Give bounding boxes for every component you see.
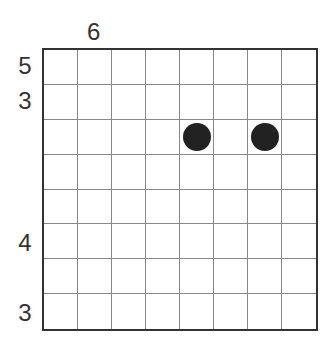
grid-cell[interactable] <box>248 120 282 155</box>
grid-cell[interactable] <box>146 120 180 155</box>
grid-cell[interactable] <box>78 224 112 259</box>
grid-cell[interactable] <box>214 294 248 329</box>
grid-cell[interactable] <box>146 155 180 190</box>
grid-cell[interactable] <box>78 50 112 85</box>
grid-cell[interactable] <box>214 85 248 120</box>
grid-cell[interactable] <box>44 85 78 120</box>
grid-cell[interactable] <box>78 259 112 294</box>
grid-cell[interactable] <box>214 224 248 259</box>
puzzle-grid <box>42 48 318 331</box>
grid-cell[interactable] <box>214 190 248 225</box>
grid-cell[interactable] <box>180 50 214 85</box>
grid-cell[interactable] <box>112 224 146 259</box>
grid-cell[interactable] <box>214 155 248 190</box>
grid-cell[interactable] <box>78 155 112 190</box>
grid-cell[interactable] <box>180 224 214 259</box>
grid-cell[interactable] <box>282 120 316 155</box>
grid-cell[interactable] <box>78 294 112 329</box>
grid-cell[interactable] <box>180 294 214 329</box>
grid-cell[interactable] <box>282 155 316 190</box>
filled-circle-icon <box>183 123 211 151</box>
grid-cell[interactable] <box>282 85 316 120</box>
row-clue: 5 <box>10 54 40 78</box>
grid-cell[interactable] <box>44 155 78 190</box>
grid-cell[interactable] <box>146 224 180 259</box>
grid-cell[interactable] <box>248 50 282 85</box>
column-clue: 6 <box>79 20 109 44</box>
grid-cell[interactable] <box>44 259 78 294</box>
grid-cell[interactable] <box>44 190 78 225</box>
grid-cell[interactable] <box>248 85 282 120</box>
grid-cell[interactable] <box>248 259 282 294</box>
grid-cell[interactable] <box>146 85 180 120</box>
grid-cell[interactable] <box>112 120 146 155</box>
grid-cell[interactable] <box>112 294 146 329</box>
grid-cell[interactable] <box>112 50 146 85</box>
grid-cell[interactable] <box>44 50 78 85</box>
grid-cell[interactable] <box>146 294 180 329</box>
row-clue: 3 <box>10 301 40 325</box>
grid-cell[interactable] <box>146 259 180 294</box>
grid-cell[interactable] <box>282 294 316 329</box>
grid-cell[interactable] <box>78 120 112 155</box>
grid-cell[interactable] <box>180 155 214 190</box>
grid-cell[interactable] <box>282 50 316 85</box>
grid-cell[interactable] <box>180 190 214 225</box>
grid-cell[interactable] <box>44 294 78 329</box>
grid-cell[interactable] <box>180 85 214 120</box>
grid-cell[interactable] <box>112 85 146 120</box>
grid-cell[interactable] <box>214 259 248 294</box>
grid-cell[interactable] <box>214 120 248 155</box>
filled-circle-icon <box>251 123 279 151</box>
grid-cell[interactable] <box>248 190 282 225</box>
grid-cell[interactable] <box>180 259 214 294</box>
grid-cell[interactable] <box>44 120 78 155</box>
grid-cell[interactable] <box>282 259 316 294</box>
grid-cell[interactable] <box>248 224 282 259</box>
grid-cell[interactable] <box>282 190 316 225</box>
row-clue: 4 <box>10 231 40 255</box>
grid-cell[interactable] <box>112 190 146 225</box>
grid-cell[interactable] <box>282 224 316 259</box>
row-clue: 3 <box>10 89 40 113</box>
grid-cell[interactable] <box>78 85 112 120</box>
grid-cell[interactable] <box>214 50 248 85</box>
grid-cell[interactable] <box>180 120 214 155</box>
grid-cell[interactable] <box>78 190 112 225</box>
grid-cell[interactable] <box>112 155 146 190</box>
grid-cell[interactable] <box>146 50 180 85</box>
grid-cell[interactable] <box>44 224 78 259</box>
grid-cell[interactable] <box>146 190 180 225</box>
grid-cell[interactable] <box>248 155 282 190</box>
grid-cell[interactable] <box>112 259 146 294</box>
grid-cell[interactable] <box>248 294 282 329</box>
